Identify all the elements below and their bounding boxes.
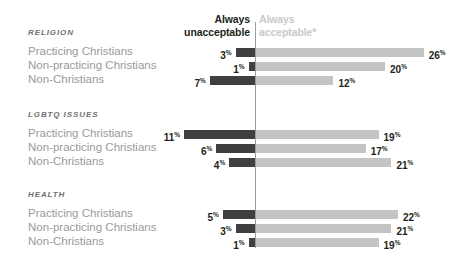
bar-always-unacceptable bbox=[249, 62, 255, 71]
bar-always-unacceptable bbox=[223, 210, 255, 219]
chart-section: LGBTQ ISSUESPracticing Christians11%19%N… bbox=[0, 110, 465, 172]
value-label-acceptable: 12% bbox=[338, 74, 355, 90]
value-label-unacceptable: 7% bbox=[0, 74, 206, 90]
header-acceptable-line1: Always bbox=[259, 13, 295, 25]
bar-always-unacceptable bbox=[236, 48, 255, 57]
value-label-acceptable: 19% bbox=[384, 236, 401, 252]
value-label-unacceptable: 1% bbox=[0, 236, 245, 252]
chart-row: Practicing Christians5%22% bbox=[0, 208, 465, 221]
bar-always-acceptable bbox=[256, 224, 391, 233]
bar-always-unacceptable bbox=[249, 238, 255, 247]
bar-always-acceptable bbox=[256, 130, 379, 139]
bar-always-acceptable bbox=[256, 48, 424, 57]
bar-always-acceptable bbox=[256, 158, 391, 167]
bar-always-unacceptable bbox=[210, 76, 255, 85]
chart-row: Non-practicing Christians3%21% bbox=[0, 222, 465, 235]
bar-always-unacceptable bbox=[229, 158, 255, 167]
chart-section: HEALTHPracticing Christians5%22%Non-prac… bbox=[0, 190, 465, 252]
bar-always-unacceptable bbox=[184, 130, 255, 139]
chart-section: RELIGIONPracticing Christians3%26%Non-pr… bbox=[0, 28, 465, 90]
bar-always-acceptable bbox=[256, 144, 366, 153]
section-title: HEALTH bbox=[28, 190, 65, 199]
bar-always-unacceptable bbox=[236, 224, 255, 233]
chart-row: Non-Christians1%19% bbox=[0, 236, 465, 249]
chart-row: Non-practicing Christians6%17% bbox=[0, 142, 465, 155]
value-label-unacceptable: 4% bbox=[0, 156, 225, 172]
chart-row: Non-Christians4%21% bbox=[0, 156, 465, 169]
bar-always-unacceptable bbox=[216, 144, 255, 153]
header-unacceptable-line1: Always bbox=[214, 13, 250, 25]
bar-always-acceptable bbox=[256, 76, 333, 85]
diverging-bar-chart: Always unacceptable Always acceptable* R… bbox=[0, 0, 465, 259]
bar-always-acceptable bbox=[256, 210, 398, 219]
chart-row: Non-Christians7%12% bbox=[0, 74, 465, 87]
section-title: RELIGION bbox=[28, 28, 74, 37]
bar-always-acceptable bbox=[256, 62, 385, 71]
bar-always-acceptable bbox=[256, 238, 379, 247]
section-title: LGBTQ ISSUES bbox=[28, 110, 98, 119]
chart-row: Practicing Christians3%26% bbox=[0, 46, 465, 59]
chart-row: Practicing Christians11%19% bbox=[0, 128, 465, 141]
value-label-acceptable: 21% bbox=[396, 156, 413, 172]
chart-row: Non-practicing Christians1%20% bbox=[0, 60, 465, 73]
